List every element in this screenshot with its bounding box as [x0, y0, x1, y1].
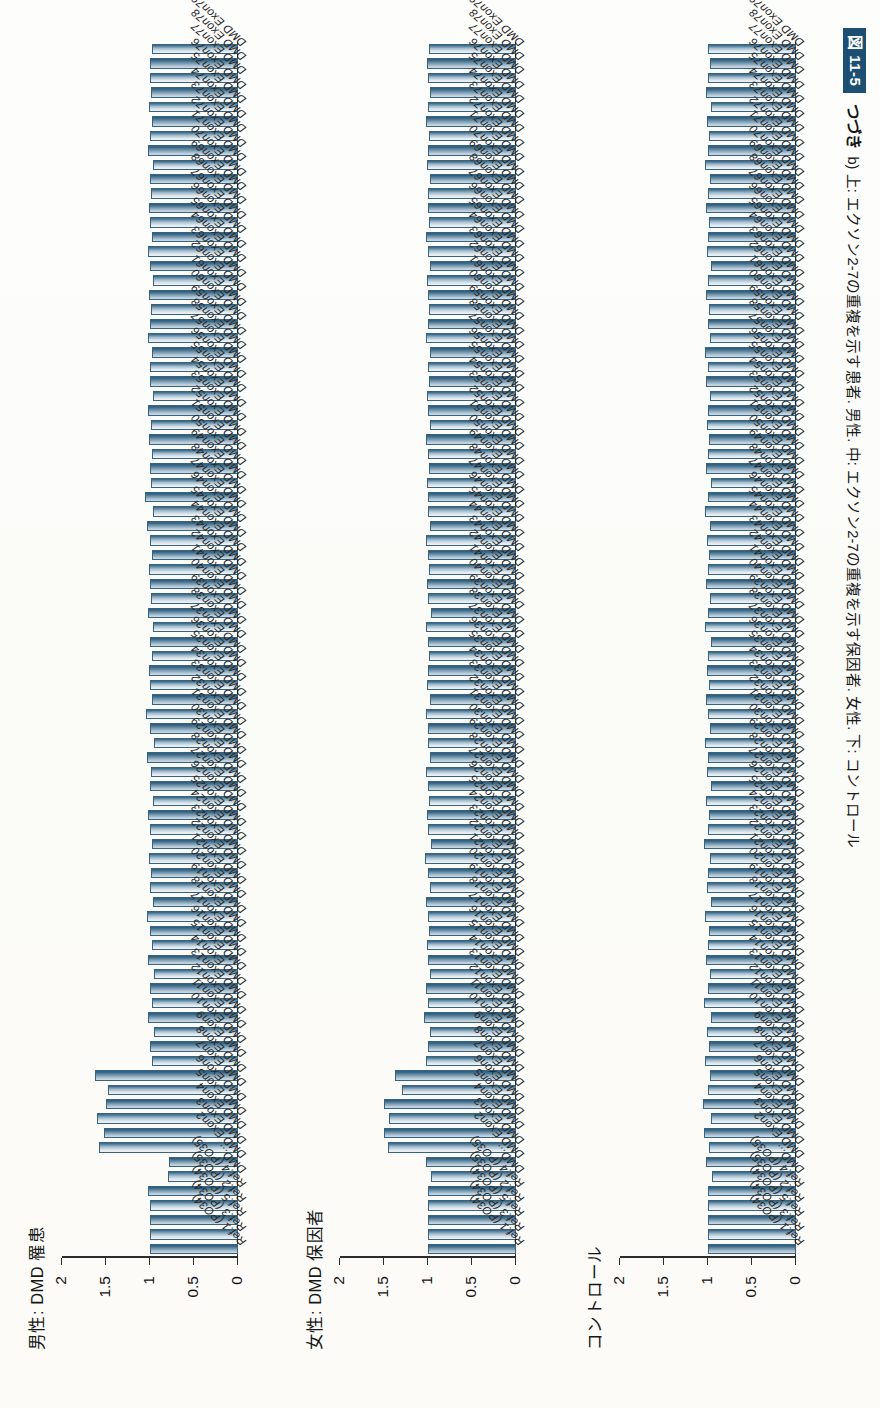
y-axis-tick: 0 — [237, 1258, 238, 1265]
y-axis-tick: 1 — [427, 1258, 428, 1265]
y-axis-tick: 1 — [149, 1258, 150, 1265]
y-axis-tick: 0.5 — [751, 1258, 752, 1265]
y-axis-tick-label: 1 — [698, 1276, 716, 1285]
figure-caption-text: b) 上: エクソン2-7の重複を示す患者. 男性. 中: エクソン2-7の重複… — [844, 156, 865, 848]
y-axis-tick: 0 — [515, 1258, 516, 1265]
y-axis-tick-label: 0 — [228, 1276, 246, 1285]
bar-slot — [340, 1242, 516, 1256]
y-axis-tick: 2 — [61, 1258, 62, 1265]
y-axis-tick-label: 1.5 — [654, 1276, 672, 1298]
y-axis-tick: 1.5 — [383, 1258, 384, 1265]
y-axis-tick-label: 0 — [506, 1276, 524, 1285]
chart-title-carrier: 女性: DMD 保因者 — [302, 1208, 326, 1350]
category-labels-patient: Ref.1 (PO34)Ref.3 (PO34)Ref.5 (PO34)Ref.… — [240, 42, 280, 1256]
y-axis-line: 00.511.52 — [62, 1256, 238, 1258]
y-axis-tick-label: 1.5 — [374, 1276, 392, 1298]
category-labels-carrier: Ref.1 (PO34)Ref.3 (PO34)Ref.5 (PO34)Ref.… — [518, 42, 558, 1256]
figure-caption-inner: 図 11-5 つづき b) 上: エクソン2-7の重複を示す患者. 男性. 中:… — [843, 28, 866, 1388]
y-axis-tick-label: 2 — [330, 1276, 348, 1285]
chart-panel-carrier: 女性: DMD 保因者 00.511.52 Ref.1 (PO34)Ref.3 … — [300, 0, 558, 1408]
figure-number-badge: 図 11-5 — [843, 28, 866, 93]
y-axis-tick-label: 2 — [52, 1276, 70, 1285]
figure-caption-block: 図 11-5 つづき b) 上: エクソン2-7の重複を示す患者. 男性. 中:… — [804, 0, 872, 1408]
y-axis-tick: 0.5 — [471, 1258, 472, 1265]
chart-panel-patient: 男性: DMD 罹患 00.511.52 Ref.1 (PO34)Ref.3 (… — [22, 0, 280, 1408]
chart-title-patient: 男性: DMD 罹患 — [24, 1226, 48, 1350]
bar — [428, 1244, 516, 1254]
y-axis-tick: 1.5 — [105, 1258, 106, 1265]
bar-slot — [340, 1227, 516, 1241]
y-axis-tick-label: 0.5 — [742, 1276, 760, 1298]
y-axis-tick-label: 1 — [418, 1276, 436, 1285]
y-axis-tick-label: 1.5 — [96, 1276, 114, 1298]
bar — [708, 1244, 796, 1254]
y-axis-tick-label: 0.5 — [184, 1276, 202, 1298]
y-axis-tick-label: 1 — [140, 1276, 158, 1285]
bar-slot — [62, 1227, 238, 1241]
y-axis-line: 00.511.52 — [620, 1256, 796, 1258]
y-axis-tick-label: 0 — [786, 1276, 804, 1285]
y-axis-tick: 1.5 — [663, 1258, 664, 1265]
y-axis-tick: 2 — [339, 1258, 340, 1265]
chart-title-control: コントロール — [582, 1245, 606, 1350]
bar-slot — [62, 1242, 238, 1256]
bar-slot — [620, 1227, 796, 1241]
y-axis-tick-label: 2 — [610, 1276, 628, 1285]
y-axis-tick: 0 — [795, 1258, 796, 1265]
figure-stage: 男性: DMD 罹患 00.511.52 Ref.1 (PO34)Ref.3 (… — [0, 0, 880, 1408]
figure-continued-label: つづき — [844, 104, 866, 149]
y-axis-tick-label: 0.5 — [462, 1276, 480, 1298]
y-axis-tick: 2 — [619, 1258, 620, 1265]
y-axis-tick: 0.5 — [193, 1258, 194, 1265]
bar-slot — [620, 1242, 796, 1256]
y-axis-tick: 1 — [707, 1258, 708, 1265]
chart-panel-control: コントロール 00.511.52 Ref.1 (PO34)Ref.3 (PO34… — [580, 0, 838, 1408]
y-axis-line: 00.511.52 — [340, 1256, 516, 1258]
chart-panels: 男性: DMD 罹患 00.511.52 Ref.1 (PO34)Ref.3 (… — [0, 0, 880, 1408]
bar — [150, 1244, 238, 1254]
